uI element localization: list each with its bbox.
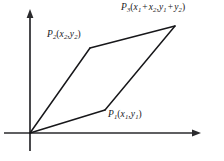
p2-point-subscript: 2 — [53, 33, 56, 40]
y-axis-arrowhead — [27, 9, 34, 18]
point-label-p1: P1(x1,y1) — [108, 110, 142, 120]
point-label-p2: P2(x2,y2) — [47, 30, 81, 40]
p3-point-subscript: 3 — [127, 6, 130, 13]
p3-y-var-b: y — [174, 2, 178, 12]
point-label-p3: P3(x1+x2,y1+y2) — [121, 3, 185, 13]
vector-addition-figure: P3(x1+x2,y1+y2) P2(x2,y2) P1(x1,y1) — [0, 0, 224, 161]
diagram-canvas — [0, 0, 224, 161]
edge-origin-to-p2 — [30, 48, 90, 133]
x-axis-arrowhead — [192, 130, 201, 137]
edge-p1-to-p3 — [105, 26, 175, 110]
parallelogram-group — [30, 26, 175, 133]
p3-y-sub-a: 1 — [163, 6, 166, 13]
p3-plus-x: + — [141, 2, 148, 12]
p3-y-sub-b: 2 — [179, 6, 182, 13]
p3-close-paren: ) — [182, 2, 185, 12]
p2-y-sub: 2 — [74, 33, 77, 40]
p1-x-sub: 1 — [125, 113, 128, 120]
edge-p2-to-p3 — [90, 26, 175, 48]
p3-x-sub-a: 1 — [138, 6, 141, 13]
edge-origin-to-p1 — [30, 110, 105, 133]
p1-point-subscript: 1 — [114, 113, 117, 120]
p3-x-sub-b: 2 — [153, 6, 156, 13]
p2-close-paren: ) — [78, 29, 81, 39]
p1-close-paren: ) — [139, 109, 142, 119]
p2-x-sub: 2 — [64, 33, 67, 40]
p1-y-sub: 1 — [135, 113, 138, 120]
